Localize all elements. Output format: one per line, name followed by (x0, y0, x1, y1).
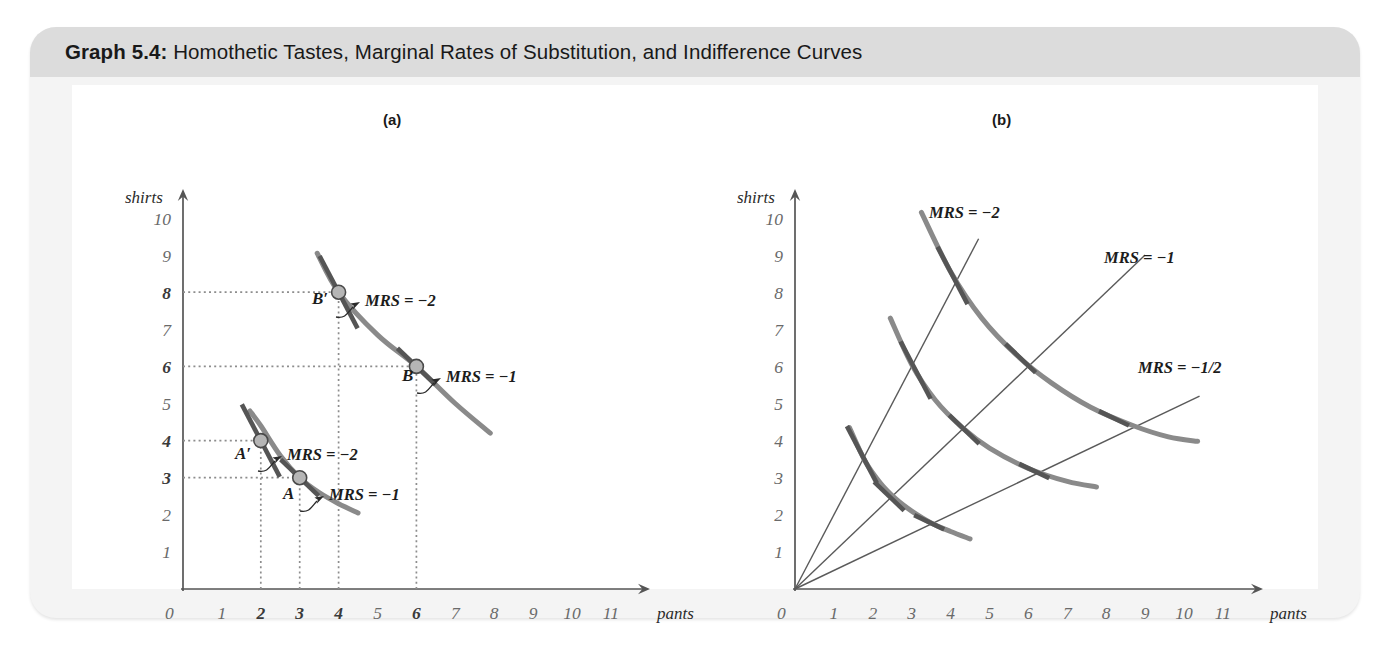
x-tick-5-a: 5 (373, 603, 382, 623)
x-tick-11-b: 11 (1215, 603, 1231, 623)
panel-a-mrs-annotations: MRS = −2 MRS = −1 MRS = −2 MRS = −1 (286, 291, 517, 504)
tangent-segment-b-2 (914, 515, 944, 529)
leader-B (417, 383, 434, 393)
origin-label-a: 0 (165, 603, 174, 623)
y-axis-title-b: shirts (737, 188, 775, 207)
x-tick-10-a: 10 (563, 603, 581, 623)
tangent-segment-b-3 (901, 341, 931, 398)
x-tick-4-a: 4 (333, 603, 343, 623)
mrs-ray-label-half: MRS = −1/2 (1137, 358, 1222, 377)
point-marker-A (293, 471, 307, 485)
y-tick-4-b: 4 (774, 431, 783, 451)
x-tick-3-b: 3 (906, 603, 916, 623)
tangent-segment-b-6 (938, 247, 968, 304)
y-tick-10-b: 10 (766, 209, 784, 229)
y-tick-1-a: 1 (162, 542, 171, 562)
x-tick-2-a: 2 (255, 603, 265, 623)
x-tick-9-a: 9 (529, 603, 538, 623)
point-label-A: A (282, 484, 294, 503)
panel-b-mrs-rays (795, 239, 1200, 589)
panel-a-chart: 123456789101112345678910 shirts pants 0 (72, 85, 692, 589)
y-tick-10-a: 10 (154, 209, 172, 229)
panel-a-axes (178, 189, 650, 594)
x-tick-6-a: 6 (412, 603, 421, 623)
figure-title: Graph 5.4: Homothetic Tastes, Marginal R… (65, 40, 862, 64)
y-tick-9-b: 9 (774, 246, 783, 266)
x-tick-10-b: 10 (1175, 603, 1193, 623)
y-tick-6-b: 6 (774, 357, 783, 377)
y-tick-9-a: 9 (162, 246, 171, 266)
panel-b-chart: 123456789101112345678910 shirts pants 0 … (686, 85, 1306, 589)
mrs-ray-2 (795, 396, 1200, 589)
x-tick-3-a: 3 (294, 603, 304, 623)
y-tick-3-a: 3 (161, 468, 171, 488)
x-tick-9-b: 9 (1141, 603, 1150, 623)
x-tick-2-b: 2 (868, 603, 877, 623)
panel-a-tick-labels: 123456789101112345678910 (154, 209, 620, 624)
figure-title-text: Homothetic Tastes, Marginal Rates of Sub… (167, 40, 862, 63)
x-tick-4-b: 4 (946, 603, 955, 623)
y-tick-1-b: 1 (774, 542, 783, 562)
panel-a-leader-lines (258, 302, 441, 511)
x-tick-6-b: 6 (1024, 603, 1033, 623)
tangent-segment-b-4 (949, 415, 979, 444)
mrs-ray-label-1: MRS = −1 (1103, 248, 1175, 267)
y-tick-7-b: 7 (774, 320, 784, 340)
tangent-segment-b-7 (1006, 344, 1036, 373)
x-axis-title-b: pants (1269, 604, 1307, 623)
point-label-B-prime: B′ (311, 289, 328, 308)
y-tick-6-a: 6 (162, 357, 171, 377)
leader-A (300, 501, 317, 511)
y-tick-8-b: 8 (774, 283, 783, 303)
point-marker-A′ (254, 434, 268, 448)
point-marker-B′ (332, 285, 346, 299)
x-tick-11-a: 11 (603, 603, 619, 623)
tangent-segment-b-5 (1019, 464, 1049, 478)
y-tick-2-b: 2 (774, 505, 783, 525)
mrs-annotation-B: MRS = −1 (445, 367, 517, 386)
x-tick-8-a: 8 (490, 603, 499, 623)
figure-frame: Graph 5.4: Homothetic Tastes, Marginal R… (30, 27, 1360, 618)
panel-b-axes (790, 189, 1263, 594)
x-tick-1-b: 1 (830, 603, 839, 623)
point-label-B: B (401, 366, 413, 385)
y-tick-2-a: 2 (162, 505, 171, 525)
figure-number: Graph 5.4: (65, 40, 167, 63)
y-tick-7-a: 7 (162, 320, 172, 340)
indifference-curve-inner-b (849, 428, 970, 539)
point-label-A-prime: A′ (234, 444, 251, 463)
indifference-curve-outer-b (921, 212, 1197, 441)
plot-canvas: (a) (b) 123456789101112345678910 shirts … (72, 85, 1318, 589)
x-tick-7-b: 7 (1063, 603, 1073, 623)
figure-title-bar: Graph 5.4: Homothetic Tastes, Marginal R… (30, 27, 1360, 77)
origin-label-b: 0 (777, 603, 786, 623)
x-tick-8-b: 8 (1102, 603, 1111, 623)
y-tick-4-a: 4 (161, 431, 171, 451)
indifference-curve-upper-a (317, 253, 490, 433)
y-tick-8-a: 8 (162, 283, 171, 303)
panel-b-tick-labels: 123456789101112345678910 (766, 209, 1232, 624)
tangent-segment-b-8 (1099, 411, 1129, 425)
x-tick-1-a: 1 (218, 603, 227, 623)
indifference-curve-middle-b (890, 318, 1096, 487)
mrs-annotation-A-prime: MRS = −2 (286, 445, 358, 464)
mrs-ray-label-2: MRS = −2 (928, 203, 1000, 222)
mrs-annotation-B-prime: MRS = −2 (364, 291, 436, 310)
tangent-segment-b-0 (847, 426, 877, 483)
y-axis-title-a: shirts (125, 188, 163, 207)
panel-b-ray-labels: MRS = −2 MRS = −1 MRS = −1/2 (928, 203, 1222, 377)
x-tick-7-a: 7 (451, 603, 461, 623)
y-tick-5-a: 5 (162, 394, 171, 414)
mrs-annotation-A: MRS = −1 (328, 485, 400, 504)
y-tick-3-b: 3 (773, 468, 783, 488)
y-tick-5-b: 5 (774, 394, 783, 414)
x-tick-5-b: 5 (985, 603, 994, 623)
x-axis-title-a: pants (656, 604, 694, 623)
tangent-segment-b-1 (874, 482, 904, 511)
